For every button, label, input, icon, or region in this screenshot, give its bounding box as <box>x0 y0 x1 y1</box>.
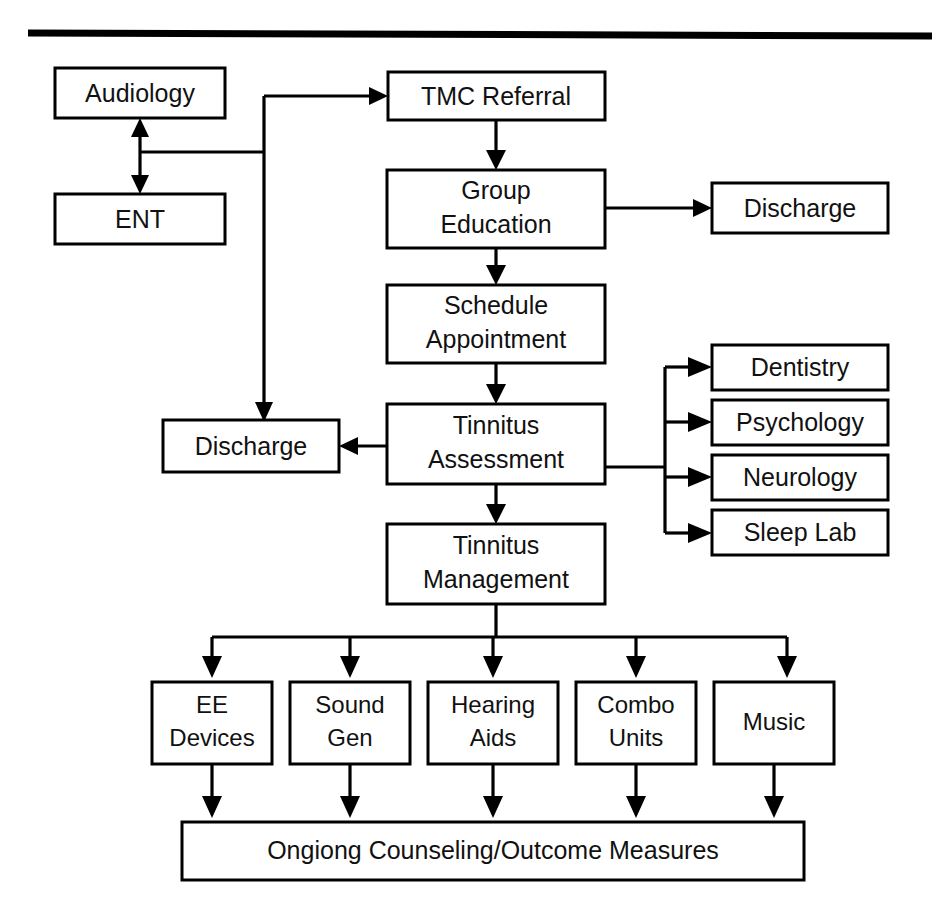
arrowhead-counseling-music <box>764 796 784 818</box>
node-sleep-lab-label: Sleep Lab <box>744 518 857 546</box>
arrowhead-counseling-combo <box>626 796 646 818</box>
node-audiology[interactable]: Audiology <box>55 68 225 118</box>
node-discharge-left[interactable]: Discharge <box>163 420 339 472</box>
node-discharge-right[interactable]: Discharge <box>712 183 888 233</box>
node-schedule-appointment-label-line2: Appointment <box>426 325 566 353</box>
node-audiology-label: Audiology <box>85 79 195 107</box>
arrowhead-group-education <box>486 150 506 170</box>
arrowhead-combo-units <box>626 656 646 678</box>
node-sound-gen-label-line2: Gen <box>327 724 372 751</box>
node-ongoing-counseling[interactable]: Ongiong Counseling/Outcome Measures <box>182 822 804 880</box>
node-tinnitus-assessment-label-line2: Assessment <box>428 445 564 473</box>
node-sound-gen-label-line1: Sound <box>315 691 384 718</box>
node-schedule-appointment[interactable]: Schedule Appointment <box>387 285 605 363</box>
arrowhead-down-ent <box>131 175 149 194</box>
node-hearing-aids-label-line2: Aids <box>470 724 517 751</box>
arrowhead-counseling-ee <box>202 796 222 818</box>
arrowhead-sleep-lab <box>688 523 712 543</box>
node-ee-devices[interactable]: EE Devices <box>152 682 272 764</box>
arrowhead-music <box>777 656 797 678</box>
node-ee-devices-label-line1: EE <box>196 691 228 718</box>
node-ent-label: ENT <box>115 205 165 233</box>
arrowhead-ee-devices <box>202 656 222 678</box>
node-neurology-label: Neurology <box>743 463 857 491</box>
arrowhead-tinnitus-management <box>486 504 506 524</box>
flowchart-svg: Audiology ENT TMC Referral Group Educati… <box>0 0 936 912</box>
arrowhead-counseling-soundgen <box>340 796 360 818</box>
node-music-label: Music <box>743 708 806 735</box>
node-neurology[interactable]: Neurology <box>712 455 888 500</box>
node-group-education[interactable]: Group Education <box>387 170 605 248</box>
node-psychology-label: Psychology <box>736 408 864 436</box>
arrowhead-neurology <box>688 467 712 487</box>
node-group-education-label-line2: Education <box>440 210 551 238</box>
node-music[interactable]: Music <box>714 682 834 764</box>
node-psychology[interactable]: Psychology <box>712 400 888 445</box>
arrowhead-psychology <box>688 412 712 432</box>
node-tinnitus-assessment[interactable]: Tinnitus Assessment <box>387 404 605 484</box>
top-horizontal-rule <box>28 33 932 36</box>
node-tinnitus-management[interactable]: Tinnitus Management <box>387 524 605 604</box>
node-ongoing-counseling-label: Ongiong Counseling/Outcome Measures <box>267 836 719 864</box>
node-schedule-appointment-label-line1: Schedule <box>444 291 548 319</box>
arrowhead-hearing-aids <box>483 656 503 678</box>
node-combo-units-label-line2: Units <box>609 724 664 751</box>
arrowhead-discharge-left <box>339 437 358 455</box>
arrowhead-tmc-referral <box>369 87 388 105</box>
node-discharge-left-label: Discharge <box>195 432 308 460</box>
arrowhead-up-audiology <box>131 118 149 137</box>
node-combo-units-label-line1: Combo <box>597 691 674 718</box>
node-tinnitus-management-label-line1: Tinnitus <box>453 531 540 559</box>
node-tinnitus-management-label-line2: Management <box>423 565 569 593</box>
arrowhead-tinnitus-assessment <box>486 384 506 404</box>
node-hearing-aids-label-line1: Hearing <box>451 691 535 718</box>
node-discharge-right-label: Discharge <box>744 194 857 222</box>
node-tinnitus-assessment-label-line1: Tinnitus <box>453 411 540 439</box>
node-hearing-aids[interactable]: Hearing Aids <box>428 682 558 764</box>
node-combo-units[interactable]: Combo Units <box>576 682 696 764</box>
node-ent[interactable]: ENT <box>55 194 225 244</box>
node-sound-gen[interactable]: Sound Gen <box>290 682 410 764</box>
arrowhead-dentistry <box>688 357 712 377</box>
arrowhead-discharge-right <box>693 199 712 217</box>
arrowhead-counseling-hearingaids <box>483 796 503 818</box>
node-tmc-referral[interactable]: TMC Referral <box>388 72 605 120</box>
node-dentistry[interactable]: Dentistry <box>712 345 888 390</box>
node-group-education-label-line1: Group <box>461 176 530 204</box>
node-dentistry-label: Dentistry <box>751 353 850 381</box>
node-ee-devices-label-line2: Devices <box>169 724 254 751</box>
arrowhead-schedule-appointment <box>486 265 506 285</box>
node-tmc-referral-label: TMC Referral <box>421 82 571 110</box>
arrowhead-sound-gen <box>340 656 360 678</box>
flowchart-container: Audiology ENT TMC Referral Group Educati… <box>0 0 936 912</box>
node-sleep-lab[interactable]: Sleep Lab <box>712 510 888 555</box>
